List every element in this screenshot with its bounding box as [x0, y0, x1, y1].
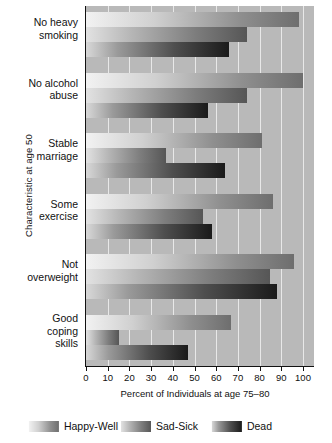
x-tick-label: 100 [291, 372, 315, 383]
gridline-10 [108, 6, 109, 366]
legend-swatch-dead [212, 421, 242, 432]
category-label-line: No heavy [0, 16, 78, 29]
gridline-60 [216, 6, 217, 366]
bar-group [86, 194, 303, 239]
bar-happy [86, 12, 299, 27]
bar-group [86, 73, 303, 118]
bar-sad [86, 330, 119, 345]
x-tick-label: 90 [269, 372, 293, 383]
bar-sad [86, 148, 166, 163]
x-axis-line [85, 366, 314, 367]
x-tick [173, 367, 174, 371]
category-label-line: overweight [0, 271, 78, 284]
x-tick [129, 367, 130, 371]
bar-dead [86, 42, 229, 57]
gridline-20 [129, 6, 130, 366]
bar-sad [86, 88, 247, 103]
legend-item[interactable]: Happy-Well [29, 418, 118, 434]
bar-group [86, 315, 303, 360]
y-axis-line [85, 6, 86, 367]
x-tick [238, 367, 239, 371]
x-tick-label: 50 [183, 372, 207, 383]
legend-label: Sad-Sick [156, 420, 198, 432]
gridline-100 [303, 6, 304, 366]
bar-dead [86, 163, 225, 178]
category-label: Someexercise [0, 198, 78, 223]
category-label: Stablemarriage [0, 137, 78, 162]
bar-happy [86, 73, 303, 88]
bar-sad [86, 269, 270, 284]
bar-chart-figure: Characteristic at age 50 No heavysmoking… [0, 0, 332, 443]
plot-area [86, 6, 314, 366]
bar-dead [86, 284, 277, 299]
category-label-line: Some [0, 198, 78, 211]
x-tick [86, 367, 87, 371]
bar-happy [86, 133, 262, 148]
x-tick [260, 367, 261, 371]
x-tick [281, 367, 282, 371]
bar-happy [86, 254, 294, 269]
category-label-line: smoking [0, 29, 78, 42]
category-label: No heavysmoking [0, 16, 78, 41]
chart-legend: Happy-WellSad-SickDead [0, 418, 332, 440]
gridline-40 [173, 6, 174, 366]
x-tick [195, 367, 196, 371]
gridline-30 [151, 6, 152, 366]
gridline-80 [260, 6, 261, 366]
category-label-line: Not [0, 258, 78, 271]
bar-sad [86, 27, 247, 42]
category-label-line: coping [0, 325, 78, 338]
bar-happy [86, 194, 273, 209]
category-label-column: No heavysmokingNo alcoholabuseStablemarr… [0, 6, 82, 366]
x-tick [108, 367, 109, 371]
category-label-line: Good [0, 312, 78, 325]
category-label: No alcoholabuse [0, 77, 78, 102]
x-tick-label: 40 [161, 372, 185, 383]
bar-dead [86, 345, 188, 360]
bar-happy [86, 315, 231, 330]
bar-dead [86, 103, 208, 118]
category-label: Goodcopingskills [0, 312, 78, 350]
bar-dead [86, 224, 212, 239]
bar-sad [86, 209, 203, 224]
x-tick [151, 367, 152, 371]
x-tick-label: 0 [74, 372, 98, 383]
category-label-line: marriage [0, 150, 78, 163]
plot-inner [86, 6, 303, 366]
x-tick [216, 367, 217, 371]
x-tick-label: 20 [117, 372, 141, 383]
gridline-70 [238, 6, 239, 366]
x-tick-label: 30 [139, 372, 163, 383]
x-axis-title: Percent of Individuals at age 75–80 [70, 388, 320, 399]
x-tick [303, 367, 304, 371]
bar-group [86, 133, 303, 178]
category-label-line: skills [0, 337, 78, 350]
legend-swatch-happy [29, 421, 59, 432]
legend-item[interactable]: Dead [212, 418, 272, 434]
category-label-line: Stable [0, 137, 78, 150]
gridline-90 [281, 6, 282, 366]
x-tick-label: 80 [248, 372, 272, 383]
category-label-line: No alcohol [0, 77, 78, 90]
legend-item[interactable]: Sad-Sick [121, 418, 198, 434]
x-tick-label: 60 [204, 372, 228, 383]
legend-label: Happy-Well [64, 420, 118, 432]
legend-swatch-sad [121, 421, 151, 432]
bar-group [86, 12, 303, 57]
legend-label: Dead [247, 420, 272, 432]
category-label: Notoverweight [0, 258, 78, 283]
bar-group [86, 254, 303, 299]
gridline-50 [195, 6, 196, 366]
x-tick-label: 70 [226, 372, 250, 383]
x-tick-label: 10 [96, 372, 120, 383]
category-label-line: exercise [0, 210, 78, 223]
category-label-line: abuse [0, 89, 78, 102]
